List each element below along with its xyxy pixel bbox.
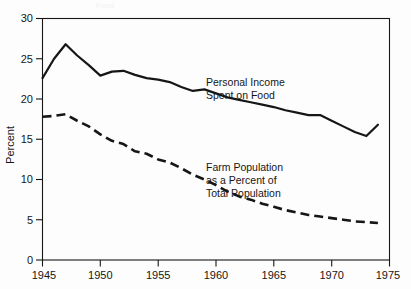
farm-population-label-line-2: as a Percent of — [206, 174, 277, 186]
xtick-label-1960: 1960 — [204, 269, 228, 281]
ytick-label-15: 15 — [21, 133, 33, 145]
cropped-title-fragment: Food — [96, 1, 114, 10]
personal-income-annotation: Personal Income Spent on Food — [206, 76, 285, 101]
xtick-label-1970: 1970 — [319, 269, 343, 281]
xtick-label-1965: 1965 — [262, 269, 286, 281]
chart-background — [0, 0, 411, 289]
ytick-label-25: 25 — [21, 53, 33, 65]
ytick-label-30: 30 — [21, 12, 33, 24]
farm-population-label-line-1: Farm Population — [206, 161, 283, 173]
ytick-label-5: 5 — [27, 214, 33, 226]
personal-income-label-line-1: Personal Income — [206, 76, 285, 88]
ytick-label-10: 10 — [21, 173, 33, 185]
chart-screenshot: Food 30 25 20 15 10 5 0 — [0, 0, 411, 289]
ytick-label-0: 0 — [27, 254, 33, 266]
y-axis-title: Percent — [4, 126, 16, 164]
farm-population-annotation: Farm Population as a Percent of Total Po… — [206, 161, 283, 199]
xtick-label-1945: 1945 — [32, 269, 56, 281]
farm-population-label-line-3: Total Population — [206, 187, 281, 199]
xtick-label-1950: 1950 — [88, 269, 112, 281]
line-chart: Food 30 25 20 15 10 5 0 — [0, 0, 411, 289]
ytick-label-20: 20 — [21, 93, 33, 105]
personal-income-label-line-2: Spent on Food — [206, 89, 275, 101]
xtick-label-1955: 1955 — [146, 269, 170, 281]
xtick-label-1975: 1975 — [376, 269, 400, 281]
